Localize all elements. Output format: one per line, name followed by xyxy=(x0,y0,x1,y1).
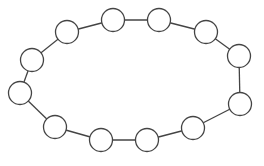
graph-node-n2 xyxy=(102,9,125,32)
graph-node-n4 xyxy=(195,21,218,44)
nodes-group xyxy=(9,9,252,152)
graph-node-n7 xyxy=(182,117,205,140)
graph-node-n10 xyxy=(44,116,67,139)
graph-node-n12 xyxy=(21,49,44,72)
graph-node-n11 xyxy=(9,82,32,105)
graph-node-n3 xyxy=(148,9,171,32)
cycle-graph-diagram xyxy=(0,0,264,166)
graph-node-n9 xyxy=(90,129,113,152)
graph-node-n8 xyxy=(136,129,159,152)
graph-node-n6 xyxy=(229,93,252,116)
graph-node-n1 xyxy=(56,21,79,44)
graph-node-n5 xyxy=(228,45,251,68)
